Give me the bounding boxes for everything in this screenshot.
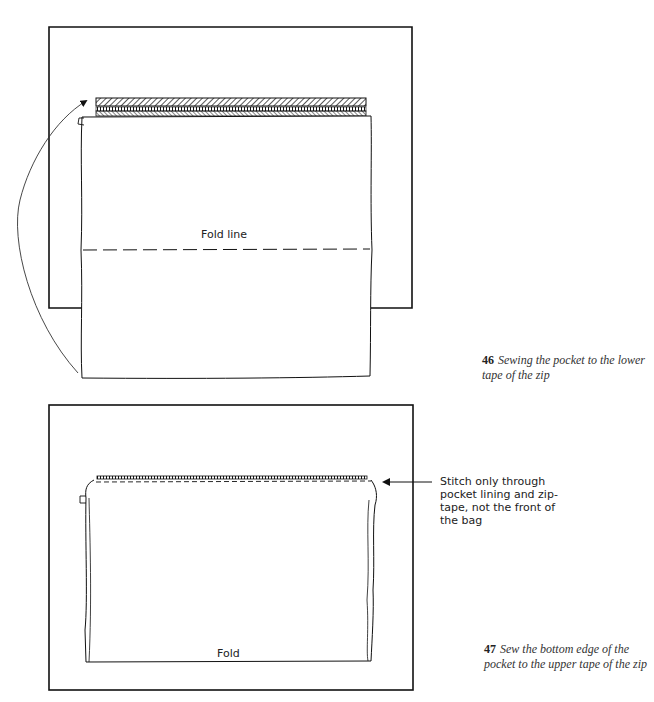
- zip-upper-tape: [96, 98, 366, 106]
- illustration-canvas: [0, 0, 654, 702]
- figure-47: [49, 405, 432, 690]
- pocket-corner-tab-47: [80, 496, 86, 503]
- stitch-line: [96, 481, 371, 482]
- folded-pocket-outline: [85, 480, 376, 662]
- figure-47-number: 47: [484, 642, 496, 656]
- stitch-note-label: Stitch only through pocket lining and zi…: [440, 475, 575, 527]
- figure-46-number: 46: [482, 353, 494, 367]
- fold-line-label: Fold line: [201, 228, 247, 241]
- figure-46-caption-text: Sewing the pocket to the lower tape of t…: [482, 353, 645, 382]
- folded-pocket-inner-edge: [89, 498, 369, 662]
- fold-arrow-icon: [17, 101, 86, 373]
- figure-47-caption-text: Sew the bottom edge of the pocket to the…: [484, 642, 647, 671]
- zip-strip: [97, 476, 367, 479]
- zip-lower-tape: [96, 111, 366, 116]
- pocket-lining-outline: [81, 116, 372, 378]
- figure-46: [17, 27, 412, 378]
- fold-label: Fold: [217, 647, 240, 660]
- figure-46-caption: 46Sewing the pocket to the lower tape of…: [482, 353, 652, 383]
- figure-47-caption: 47Sew the bottom edge of the pocket to t…: [484, 642, 654, 672]
- zip-teeth: [96, 107, 366, 111]
